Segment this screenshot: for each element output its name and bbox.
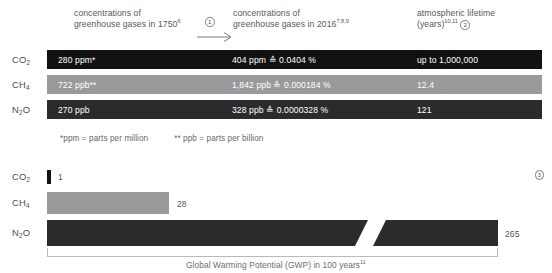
gwp-value-ch4: 28 [177, 199, 187, 209]
gwp-label-co2-sub: 2 [26, 176, 30, 183]
gwp-label-ch4: CH4 [12, 197, 30, 208]
gwp-label-co2: CO2 [12, 171, 30, 182]
gwp-label-n2o: N2O [12, 227, 30, 238]
column-header-2016-line1: concentrations of [233, 8, 300, 18]
table-row: CH4 722 ppb** 1,842 ppb ≙ 0.000184 % 12.… [0, 75, 552, 94]
gwp-value-n2o: 265 [505, 229, 520, 239]
gwp-bar-n2o-left-segment [47, 220, 368, 246]
row-bar-co2: 280 ppm* 404 ppm ≙ 0.0404 % up to 1,000,… [47, 50, 542, 69]
callout-marker-1: 1 [205, 17, 215, 27]
gwp-label-ch4-sub: 4 [26, 202, 30, 209]
column-header-1750-line1: concentrations of [74, 8, 141, 18]
gwp-label-n2o-tail: O [23, 227, 30, 238]
row-label-n2o-sub: 2 [19, 109, 23, 116]
gwp-label-ch4-text: CH [12, 197, 26, 208]
column-header-2016: concentrations of greenhouse gases in 20… [233, 8, 383, 31]
gwp-row-co2: CO2 1 [0, 168, 552, 186]
greenhouse-gas-figure: concentrations of greenhouse gases in 17… [0, 0, 552, 273]
footnote-ref-2016: 7,8,9 [336, 19, 348, 25]
row-label-co2: CO2 [12, 54, 30, 65]
row-label-co2-text: CO [12, 54, 26, 65]
footnote-ref-1750: 6 [177, 19, 180, 25]
column-header-1750-line2: greenhouse gases in 1750 [74, 19, 177, 29]
column-header-lifetime-line1: atmospheric lifetime [417, 8, 495, 18]
row-label-ch4-sub: 4 [26, 84, 30, 91]
gwp-label-n2o-text: N [12, 227, 19, 238]
cell-co2-lifetime: up to 1,000,000 [417, 50, 478, 69]
row-label-n2o-tail: O [23, 104, 30, 115]
gwp-bar-ch4 [47, 192, 169, 214]
units-footnote: *ppm = parts per million** ppb = parts p… [60, 134, 264, 143]
gwp-axis-bracket [47, 248, 498, 257]
row-bar-ch4: 722 ppb** 1,842 ppb ≙ 0.000184 % 12.4 [47, 75, 542, 94]
gwp-label-co2-text: CO [12, 171, 26, 182]
column-header-lifetime-line2: (years) [417, 19, 444, 29]
cell-co2-1750: 280 ppm* [58, 50, 95, 69]
callout-marker-2: 2 [460, 20, 470, 30]
right-arrow-icon [196, 30, 238, 42]
gwp-bar-n2o-right-segment [373, 220, 498, 246]
column-header-1750: concentrations of greenhouse gases in 17… [74, 8, 194, 31]
cell-ch4-lifetime: 12.4 [417, 75, 434, 94]
units-footnote-ppb: ** ppb = parts per billion [174, 134, 263, 143]
gwp-row-n2o: N2O 265 [0, 220, 552, 246]
cell-n2o-1750: 270 ppb [58, 100, 90, 119]
row-bar-n2o: 270 ppb 328 ppb ≙ 0.0000328 % 121 [47, 100, 542, 119]
column-header-lifetime: atmospheric lifetime (years)10,11 2 [417, 8, 542, 31]
cell-co2-2016: 404 ppm ≙ 0.0404 % [232, 50, 316, 69]
gwp-value-co2: 1 [58, 172, 63, 182]
gwp-caption-ref: 11 [360, 259, 366, 265]
table-row: N2O 270 ppb 328 ppb ≙ 0.0000328 % 121 [0, 100, 552, 119]
row-label-ch4-text: CH [12, 79, 26, 90]
cell-ch4-1750: 722 ppb** [58, 75, 97, 94]
column-header-2016-line2: greenhouse gases in 2016 [233, 19, 336, 29]
footnote-ref-lifetime: 10,11 [444, 19, 458, 25]
row-label-n2o: N2O [12, 104, 30, 115]
units-footnote-ppm: *ppm = parts per million [60, 134, 148, 143]
row-label-ch4: CH4 [12, 79, 30, 90]
cell-ch4-2016: 1,842 ppb ≙ 0.000184 % [232, 75, 331, 94]
gwp-bar-co2 [47, 170, 51, 184]
table-row: CO2 280 ppm* 404 ppm ≙ 0.0404 % up to 1,… [0, 50, 552, 69]
column-headers: concentrations of greenhouse gases in 17… [0, 8, 552, 44]
row-label-n2o-text: N [12, 104, 19, 115]
gwp-label-n2o-sub: 2 [19, 232, 23, 239]
cell-n2o-lifetime: 121 [417, 100, 432, 119]
row-label-co2-sub: 2 [26, 59, 30, 66]
gwp-caption-text: Global Warming Potential (GWP) in 100 ye… [186, 260, 360, 270]
gwp-row-ch4: CH4 28 [0, 192, 552, 214]
cell-n2o-2016: 328 ppb ≙ 0.0000328 % [232, 100, 328, 119]
gwp-chart: 3 CO2 1 CH4 28 N2O 265 [0, 168, 552, 273]
gwp-caption: Global Warming Potential (GWP) in 100 ye… [0, 260, 552, 270]
